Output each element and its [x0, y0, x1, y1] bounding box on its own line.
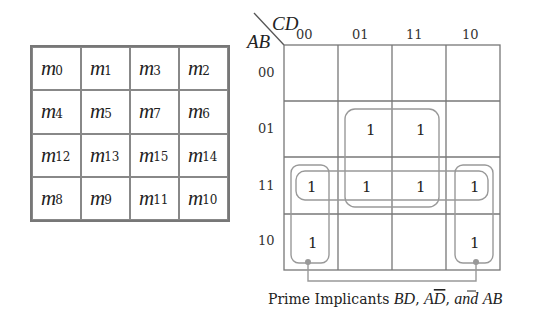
col-label: 10 [462, 27, 479, 42]
kmap-cell-value: 1 [470, 178, 480, 196]
row-variable-label: AB [245, 31, 271, 52]
row-label: 11 [258, 178, 275, 193]
connector-dot [473, 259, 479, 265]
col-variable-label: CD [272, 13, 299, 34]
col-label: 11 [406, 27, 423, 42]
karnaugh-map: CD AB 00 01 11 10 00 01 11 10 1 1 1 1 1 … [0, 0, 545, 319]
kmap-cell-value: 1 [307, 178, 317, 196]
kmap-cell-value: 1 [366, 121, 376, 139]
kmap-cell-value: 1 [362, 178, 372, 196]
col-label: 01 [352, 27, 369, 42]
connector-dot [305, 259, 311, 265]
caption: Prime Implicants BD, AD, and AB [268, 290, 503, 307]
kmap-cell-value: 1 [308, 234, 318, 252]
kmap-cell-value: 1 [470, 234, 480, 252]
col-label: 00 [296, 27, 313, 42]
kmap-cell-value: 1 [416, 178, 426, 196]
d-complement: D [433, 290, 446, 307]
row-label: 01 [258, 121, 275, 136]
row-label: 10 [258, 233, 275, 248]
row-label: 00 [258, 65, 275, 80]
kmap-cell-value: 1 [416, 121, 426, 139]
